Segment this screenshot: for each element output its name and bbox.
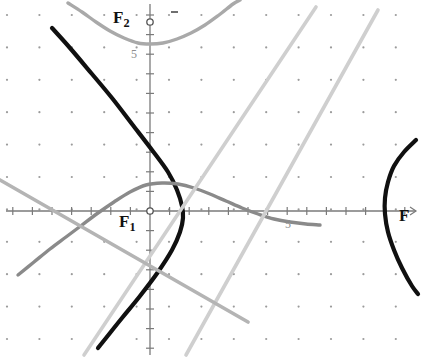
grid-dot	[200, 144, 202, 146]
grid-dot	[71, 79, 73, 81]
label-focus-f1-text: F	[119, 212, 129, 231]
grid-dot	[200, 46, 202, 48]
grid-dot	[71, 306, 73, 308]
grid-dot	[6, 176, 8, 178]
grid-dot	[330, 111, 332, 113]
grid-dot	[103, 273, 105, 275]
grid-dot	[265, 176, 267, 178]
grid-dot	[362, 14, 364, 16]
grid-dot	[71, 273, 73, 275]
grid-dot	[298, 79, 300, 81]
grid-dot	[71, 176, 73, 178]
grid-dot	[168, 111, 170, 113]
grid-dot	[298, 273, 300, 275]
grid-dot	[200, 208, 202, 210]
grid-dot	[298, 306, 300, 308]
grid-dot	[103, 79, 105, 81]
grid-dot	[38, 338, 40, 340]
grid-dot	[395, 338, 397, 340]
grid-dot	[330, 46, 332, 48]
grid-dot	[265, 273, 267, 275]
grid-dot	[71, 144, 73, 146]
grid-dot	[6, 79, 8, 81]
grid-dot	[103, 176, 105, 178]
grid-dot	[136, 208, 138, 210]
grid-dot	[298, 241, 300, 243]
grid-dot	[233, 79, 235, 81]
grid-dot	[362, 176, 364, 178]
grid-dot	[71, 338, 73, 340]
grid-dot	[71, 111, 73, 113]
grid-dot	[362, 46, 364, 48]
grid-dot	[362, 79, 364, 81]
grid-dot	[330, 338, 332, 340]
label-focus-f2-text: F	[113, 8, 123, 27]
grid-dot	[330, 241, 332, 243]
label-focus-f2-subscript: 2	[123, 16, 129, 30]
grid-dot	[6, 208, 8, 210]
grid-dot	[136, 338, 138, 340]
grid-dot	[136, 14, 138, 16]
grid-dot	[6, 306, 8, 308]
grid-dot	[395, 144, 397, 146]
grid-dot	[136, 241, 138, 243]
grid-dot	[298, 46, 300, 48]
grid-dot	[6, 46, 8, 48]
grid-dot	[38, 46, 40, 48]
grid-dot	[6, 144, 8, 146]
curve-descending-gray-line	[0, 180, 248, 322]
grid-dot	[38, 306, 40, 308]
grid-dot	[395, 208, 397, 210]
grid-dot	[362, 208, 364, 210]
grid-dot	[200, 273, 202, 275]
grid-dot	[136, 79, 138, 81]
grid-dot	[38, 176, 40, 178]
grid-dot	[38, 241, 40, 243]
grid-dot	[200, 111, 202, 113]
grid-dot	[168, 338, 170, 340]
grid-dot	[395, 306, 397, 308]
grid-dot	[168, 14, 170, 16]
grid-dot	[395, 241, 397, 243]
grid-dot	[298, 338, 300, 340]
grid-dot	[38, 208, 40, 210]
grid-dot	[330, 273, 332, 275]
grid-dot	[298, 111, 300, 113]
curve-parabola-up-gray	[68, 0, 240, 44]
grid-dot	[38, 111, 40, 113]
grid-dot	[362, 338, 364, 340]
grid-dot	[200, 338, 202, 340]
grid-dot	[362, 144, 364, 146]
grid-dot	[6, 273, 8, 275]
grid-dot	[103, 14, 105, 16]
grid-dot	[168, 46, 170, 48]
grid-dot	[395, 111, 397, 113]
graph-canvas: F2 F1 F 5 5	[0, 0, 422, 359]
grid-dot	[395, 46, 397, 48]
grid-dot	[71, 14, 73, 16]
grid-dot	[362, 241, 364, 243]
grid-dot	[395, 273, 397, 275]
grid-dot	[233, 46, 235, 48]
grid-dot	[168, 79, 170, 81]
tick-label-x-5: 5	[285, 218, 291, 230]
grid-dot	[395, 79, 397, 81]
grid-dot	[330, 14, 332, 16]
grid-dot	[136, 144, 138, 146]
grid-dot	[200, 241, 202, 243]
grid-dot	[71, 241, 73, 243]
grid-dot	[330, 79, 332, 81]
grid-dot	[200, 14, 202, 16]
grid-dot	[168, 241, 170, 243]
grid-dot	[233, 338, 235, 340]
grid-dot	[362, 273, 364, 275]
grid-dot	[395, 176, 397, 178]
grid-dot	[136, 306, 138, 308]
grid-dot	[265, 241, 267, 243]
grid-dot	[298, 14, 300, 16]
grid-dot	[103, 306, 105, 308]
grid-dot	[233, 208, 235, 210]
grid-dot	[136, 111, 138, 113]
grid-dot	[200, 306, 202, 308]
grid-dot	[265, 14, 267, 16]
